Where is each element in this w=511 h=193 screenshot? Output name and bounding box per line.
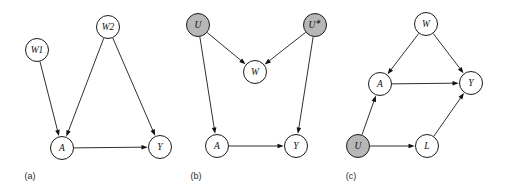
c-l-y	[434, 97, 461, 136]
c-u-l-arrowhead	[409, 144, 415, 149]
c-u-a-arrowhead	[372, 96, 376, 103]
c-w-a	[391, 34, 419, 71]
a-w1-a-arrowhead	[55, 130, 59, 137]
node-l[interactable]: L	[416, 135, 439, 158]
node-label: A	[376, 79, 383, 89]
node-label: U	[195, 20, 203, 30]
node-label: L	[423, 141, 429, 151]
node-label: W	[251, 67, 260, 77]
node-a[interactable]: A	[51, 137, 74, 160]
node-y[interactable]: Y	[460, 72, 483, 95]
b-u-a-arrowhead	[212, 127, 217, 133]
node-a[interactable]: A	[206, 135, 229, 158]
node-w[interactable]: W	[415, 13, 438, 36]
panel-b-edges	[200, 32, 313, 148]
node-label: A	[213, 141, 220, 151]
panel-a: W1W2AY(a)	[25, 16, 172, 182]
panel-b: UU∗WAY(b)	[187, 14, 327, 182]
node-label: U	[355, 141, 363, 151]
a-a-y-arrowhead	[141, 145, 147, 150]
node-y[interactable]: Y	[149, 136, 172, 159]
panel-a-nodes: W1W2AY	[26, 16, 172, 160]
c-w-y-arrowhead	[458, 67, 464, 73]
node-w[interactable]: W	[244, 61, 267, 84]
causal-dag-figure: W1W2AY(a)UU∗WAY(b)WAYUL(c)	[0, 0, 511, 193]
node-w2[interactable]: W2	[97, 16, 120, 39]
panel-c-nodes: WAYUL	[347, 13, 483, 158]
panel-a-edges	[40, 38, 155, 149]
b-u-w	[207, 33, 241, 61]
node-w1[interactable]: W1	[26, 39, 49, 62]
b-us-w-arrowhead	[265, 59, 271, 65]
c-w-a-arrowhead	[387, 68, 393, 74]
node-label: W1	[31, 45, 44, 55]
node-a[interactable]: A	[369, 73, 392, 96]
a-w2-y	[113, 38, 153, 131]
b-us-y	[299, 37, 313, 129]
panel-c-caption: (c)	[346, 171, 357, 181]
c-l-y-arrowhead	[459, 93, 464, 99]
node-y[interactable]: Y	[285, 135, 308, 158]
b-us-w	[269, 32, 306, 61]
node-label: W	[422, 19, 431, 29]
panel-a-caption: (a)	[25, 171, 36, 181]
b-u-a	[200, 37, 214, 129]
c-w-y	[433, 34, 460, 70]
node-label: W2	[102, 22, 115, 32]
a-w1-a	[40, 62, 58, 132]
a-w2-a-arrowhead	[66, 130, 70, 137]
panel-c: WAYUL(c)	[346, 13, 483, 182]
c-u-a	[362, 100, 374, 134]
a-a-y	[74, 147, 143, 148]
node-u[interactable]: U	[187, 14, 210, 37]
b-a-y-arrowhead	[278, 144, 284, 149]
dag-canvas: W1W2AY(a)UU∗WAY(b)WAYUL(c)	[0, 0, 511, 193]
node-label: A	[58, 143, 65, 153]
node-u-star[interactable]: U∗	[304, 14, 327, 37]
c-a-y-arrowhead	[452, 81, 458, 86]
node-u[interactable]: U	[347, 135, 370, 158]
a-w2-y-arrowhead	[151, 129, 156, 136]
b-us-y-arrowhead	[297, 127, 302, 133]
a-w2-a	[68, 38, 104, 132]
c-a-y	[392, 83, 454, 84]
panel-b-caption: (b)	[191, 171, 202, 181]
